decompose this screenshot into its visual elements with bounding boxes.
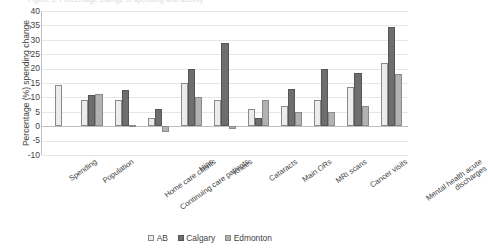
y-axis-ticks: 4035302520151050-5-10 [10,11,40,155]
bar-ab [281,106,288,126]
clipped-figure-caption: Figure 3: Percentage change in spending … [28,0,203,4]
legend-label: AB [157,233,168,243]
bar-edmonton [295,112,302,126]
legend-swatch-icon [225,235,231,241]
bar-ab [115,100,122,126]
plot-area [42,11,408,155]
bar-group-bars [242,11,275,155]
bar-ab [81,100,88,126]
bar-edmonton [129,125,136,127]
x-axis-labels: SpendingPopulationHome care clientsConti… [42,156,408,228]
bar-calgary [255,118,262,127]
x-tick-label: Knees [232,158,254,177]
x-tick-label: Cataracts [267,158,298,184]
x-tick-label: Cancer visits [369,158,409,190]
y-tick-label: 0 [14,122,40,131]
bar-ab [381,63,388,126]
bar-ab [148,118,155,127]
bar-group [42,11,75,155]
y-tick-label: -5 [14,136,40,145]
bar-ab [347,87,354,126]
x-tick-label: MRI scans [335,158,369,185]
bar-edmonton [195,97,202,126]
bar-calgary [321,69,328,127]
bar-group [208,11,241,155]
x-tick-label: Spending [68,158,99,183]
x-tick-label: Mental health acute discharges [410,158,488,220]
bar-group-bars [375,11,408,155]
bar-calgary [354,73,361,126]
bar-group-bars [142,11,175,155]
legend-item-calgary[interactable]: Calgary [178,233,215,243]
bar-group-bars [175,11,208,155]
bar-edmonton [395,74,402,126]
bar-groups [42,11,408,155]
bar-calgary [388,27,395,126]
bar-ab [181,83,188,126]
bar-group [142,11,175,155]
x-tick-label: Main ORs [301,158,333,184]
bar-edmonton [328,112,335,126]
bar-group [341,11,374,155]
bar-group [375,11,408,155]
y-tick-label: -10 [14,151,40,160]
bar-ab [248,109,255,126]
bar-edmonton [95,94,102,127]
bar-group [242,11,275,155]
bar-edmonton [262,100,269,126]
legend-item-edmonton[interactable]: Edmonton [225,233,272,243]
x-tick-label: Population [102,158,136,185]
bar-edmonton [162,126,169,132]
bar-calgary [188,69,195,127]
bar-group [75,11,108,155]
bar-group-bars [275,11,308,155]
y-tick-label: 5 [14,108,40,117]
bar-ab [214,100,221,126]
bar-group-bars [308,11,341,155]
y-tick-label: 30 [14,36,40,45]
y-tick-label: 25 [14,50,40,59]
bar-ab [314,100,321,126]
bar-group-bars [341,11,374,155]
bar-ab [55,85,62,126]
bar-calgary [122,90,129,126]
bar-calgary [155,109,162,126]
bar-group-bars [42,11,75,155]
bar-edmonton [362,106,369,126]
bar-calgary [221,43,228,127]
y-tick-label: 40 [14,7,40,16]
legend-swatch-icon [148,235,154,241]
bar-group [175,11,208,155]
bar-group [109,11,142,155]
y-tick-label: 10 [14,93,40,102]
legend-label: Edmonton [234,233,272,243]
bar-calgary [88,95,95,126]
y-tick-label: 20 [14,64,40,73]
legend-item-ab[interactable]: AB [148,233,168,243]
legend-label: Calgary [186,233,215,243]
legend-swatch-icon [178,235,184,241]
bar-group-bars [75,11,108,155]
y-tick-label: 35 [14,21,40,30]
bar-edmonton [229,126,236,129]
bar-group-bars [109,11,142,155]
y-tick-label: 15 [14,79,40,88]
bar-group [308,11,341,155]
chart-legend: ABCalgaryEdmonton [0,233,420,243]
bar-group [275,11,308,155]
bar-group-bars [208,11,241,155]
bar-calgary [288,89,295,126]
